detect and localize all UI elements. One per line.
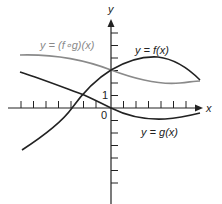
curve-f-of-g <box>20 55 200 83</box>
origin-label: 0 <box>101 109 107 121</box>
fog-curve-label: y = (f∘g)(x) <box>39 39 95 51</box>
g-curve-label: y = g(x) <box>140 126 178 138</box>
x-axis-arrow-icon <box>195 105 203 112</box>
x-axis-label: x <box>205 102 212 114</box>
f-curve-label: y = f(x) <box>134 44 169 56</box>
function-composition-chart: y x 0 1 y = (f∘g)(x) y = f(x) y = g(x) <box>0 0 222 204</box>
y-axis-label: y <box>107 3 115 15</box>
curve-g <box>20 72 200 119</box>
y-one-label: 1 <box>102 89 108 101</box>
y-axis-arrow-icon <box>108 19 115 27</box>
